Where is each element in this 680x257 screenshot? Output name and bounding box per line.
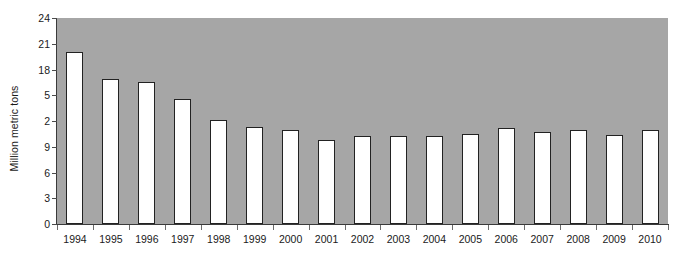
x-axis-tick-label: 1994	[63, 233, 86, 246]
y-axis-tick-mark	[52, 18, 57, 19]
x-axis-tick-label: 1999	[243, 233, 266, 246]
y-axis-tick-mark	[52, 173, 57, 174]
x-axis-tick-label: 2004	[423, 233, 446, 246]
x-axis-tick-label: 1995	[99, 233, 122, 246]
x-axis-tick-label: 1997	[171, 233, 194, 246]
x-axis-tick-mark	[380, 225, 381, 230]
x-axis-tick-label: 2001	[315, 233, 338, 246]
x-axis-tick-marks	[57, 225, 668, 231]
x-axis-tick-mark	[129, 225, 130, 230]
x-axis-tick-label: 2009	[602, 233, 625, 246]
x-axis-tick-mark	[416, 225, 417, 230]
x-axis-tick-mark	[560, 225, 561, 230]
x-axis-tick-mark	[93, 225, 94, 230]
x-axis-tick-mark	[201, 225, 202, 230]
x-axis-tick-label: 1998	[207, 233, 230, 246]
x-axis-tick-mark	[309, 225, 310, 230]
x-axis-tick-labels: 1994199519961997199819992000200120022003…	[57, 233, 668, 249]
x-axis-tick-mark	[57, 225, 58, 230]
x-axis-tick-label: 2008	[566, 233, 589, 246]
x-axis-tick-label: 2007	[531, 233, 554, 246]
x-axis-tick-mark	[452, 225, 453, 230]
x-axis-tick-mark	[632, 225, 633, 230]
x-axis-tick-mark	[237, 225, 238, 230]
x-axis-tick-mark	[668, 225, 669, 230]
x-axis-tick-label: 2003	[387, 233, 410, 246]
y-axis-tick-mark	[52, 70, 57, 71]
x-axis-tick-mark	[273, 225, 274, 230]
y-axis-tick-mark	[52, 224, 57, 225]
x-axis-tick-label: 2006	[495, 233, 518, 246]
x-axis-tick-mark	[165, 225, 166, 230]
y-axis-tick-mark	[52, 44, 57, 45]
y-axis-tick-mark	[52, 121, 57, 122]
x-axis-tick-mark	[345, 225, 346, 230]
x-axis-tick-label: 2005	[459, 233, 482, 246]
bars-layer	[0, 0, 680, 257]
x-axis-tick-mark	[524, 225, 525, 230]
x-axis-tick-label: 1996	[135, 233, 158, 246]
x-axis-tick-label: 2002	[351, 233, 374, 246]
x-axis-tick-label: 2000	[279, 233, 302, 246]
y-axis-tick-mark	[52, 95, 57, 96]
y-axis-tick-mark	[52, 147, 57, 148]
x-axis-tick-mark	[596, 225, 597, 230]
x-axis-tick-mark	[488, 225, 489, 230]
y-axis-tick-mark	[52, 198, 57, 199]
x-axis-tick-label: 2010	[638, 233, 661, 246]
bar-chart: Million metric tons 036925182124 1994199…	[0, 0, 680, 257]
